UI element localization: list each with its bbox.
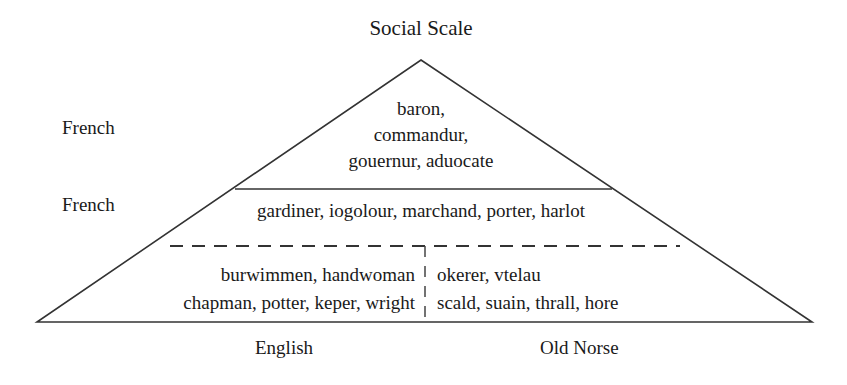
base-label-old-norse: Old Norse (540, 337, 619, 359)
tier-3-old-norse-line-1: okerer, vtelau (437, 261, 619, 289)
tier-3-old-norse-column: okerer, vtelau scald, suain, thrall, hor… (437, 261, 619, 316)
tier-1-line-2: commandur, (349, 122, 494, 148)
base-label-english: English (255, 337, 313, 359)
tier-3-english-line-2: chapman, potter, keper, wright (183, 289, 415, 317)
tier-3-old-norse-line-2: scald, suain, thrall, hore (437, 289, 619, 317)
side-label-french-top: French (62, 117, 115, 139)
tier-2-content: gardiner, iogolour, marchand, porter, ha… (257, 200, 585, 222)
pyramid-graphic (0, 0, 847, 385)
tier-3-english-column: burwimmen, handwoman chapman, potter, ke… (183, 261, 415, 316)
tier-1-content: baron, commandur, gouernur, aduocate (349, 96, 494, 175)
social-scale-diagram: Social Scale French French baron, comman… (0, 0, 847, 385)
tier-3-english-line-1: burwimmen, handwoman (183, 261, 415, 289)
tier-2-line-1: gardiner, iogolour, marchand, porter, ha… (257, 200, 585, 222)
side-label-french-middle: French (62, 194, 115, 216)
tier-1-line-1: baron, (349, 96, 494, 122)
page-title: Social Scale (369, 16, 472, 40)
tier-1-line-3: gouernur, aduocate (349, 148, 494, 174)
